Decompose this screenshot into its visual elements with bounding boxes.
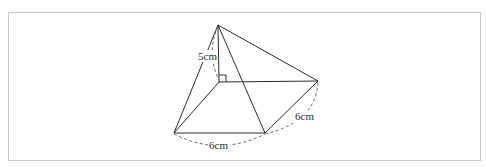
right-angle-marker [219, 75, 226, 82]
lateral-edge-front-right [218, 25, 265, 133]
base-edge-back [219, 81, 318, 82]
base-side-label: 6cm [295, 110, 314, 122]
height-line [218, 25, 219, 82]
pyramid-diagram: 5cm 6cm 6cm [0, 0, 486, 167]
lateral-edge-front-left [174, 25, 218, 133]
base-side-dimension-arc [265, 82, 318, 134]
lateral-edge-back-right [218, 25, 318, 81]
base-edge-left [174, 82, 219, 133]
base-edge-right [265, 81, 318, 133]
base-front-label: 6cm [209, 139, 228, 151]
height-label: 5cm [198, 50, 217, 62]
